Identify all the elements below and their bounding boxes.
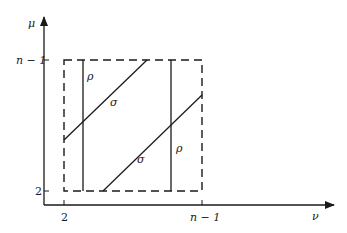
sigma-label-lower: σ (137, 153, 145, 166)
dashed-region (64, 60, 202, 191)
y-tick-label-top: n − 1 (16, 54, 46, 67)
rho-label-left: ρ (86, 70, 94, 83)
rho-label-right: ρ (175, 142, 183, 155)
diagram-canvas: μ ν n − 1 2 2 n − 1 ρ ρ σ σ (0, 0, 347, 233)
x-axis-label: ν (312, 210, 319, 223)
y-tick-label-bottom: 2 (35, 185, 42, 198)
sigma-label-upper: σ (110, 96, 118, 109)
sigma-line-upper (64, 60, 147, 140)
sigma-line-lower (103, 95, 202, 191)
y-axis-label: μ (28, 17, 35, 30)
x-tick-label-left: 2 (61, 211, 68, 224)
x-tick-label-right: n − 1 (190, 211, 220, 224)
